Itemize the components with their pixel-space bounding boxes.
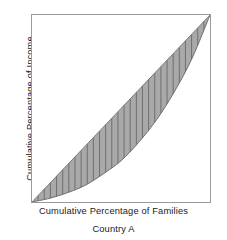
line-of-equality <box>32 15 210 202</box>
lorenz-curve-figure: Cumulative Percentage of Income Cumulati… <box>0 0 227 240</box>
plot-area <box>32 15 210 202</box>
plot-frame <box>31 14 211 203</box>
x-axis-label: Cumulative Percentage of Families <box>0 206 227 216</box>
figure-caption: Country A <box>0 224 227 234</box>
